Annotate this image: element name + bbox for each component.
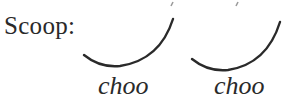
top-fragment-1: [171, 2, 173, 6]
scoop-arc-2: [192, 22, 280, 70]
top-fragment-2: [236, 2, 238, 6]
syllable-2: choo: [214, 71, 265, 101]
scoop-arc-1: [84, 19, 173, 66]
syllable-1: choo: [98, 71, 149, 101]
